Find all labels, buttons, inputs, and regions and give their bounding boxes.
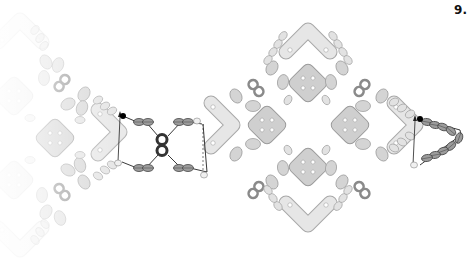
diagram-canvas bbox=[0, 0, 469, 273]
beading-diagram: 9. bbox=[0, 0, 469, 273]
thread-start-dot bbox=[120, 113, 126, 119]
step-number: 9. bbox=[454, 3, 467, 17]
thread-start-dot-right bbox=[417, 116, 423, 122]
